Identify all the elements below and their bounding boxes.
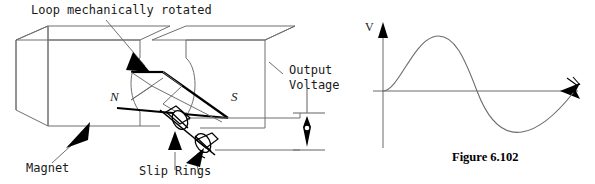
leader-output-voltage <box>269 62 283 74</box>
label-north-pole: N <box>110 89 119 105</box>
voltage-arrow-body <box>303 116 311 147</box>
figure-caption: Figure 6.102 <box>452 150 518 165</box>
loop-twist-edge-a <box>131 72 163 100</box>
output-terminals <box>293 88 325 150</box>
label-south-pole: S <box>231 89 238 105</box>
leader-loop-arrowhead <box>126 52 150 72</box>
north-top-face <box>16 26 170 40</box>
label-slip-rings: Slip Rings <box>139 164 211 179</box>
south-top-face <box>152 26 295 40</box>
waveform-arrow-feather-1 <box>567 78 578 86</box>
label-magnet: Magnet <box>26 161 69 176</box>
label-output-voltage-line2: Voltage <box>289 78 340 93</box>
label-waveform-v-axis: V <box>365 20 374 35</box>
waveform-sine-curve <box>383 36 573 132</box>
voltage-arrow-waist <box>305 126 310 131</box>
figure-container: Loop mechanically rotated N S Output Vol… <box>0 0 595 184</box>
loop-inner-diagonal <box>152 86 222 122</box>
loop-twist-edge-b <box>163 72 182 104</box>
north-left-face <box>16 26 48 126</box>
waveform-plot <box>373 22 580 148</box>
south-corner-edge <box>265 26 295 40</box>
output-voltage-arrow <box>303 116 311 147</box>
leader-slip-ring-1-arrowhead <box>168 131 182 150</box>
waveform-y-axis-arrowhead <box>378 22 388 38</box>
leader-loop-label <box>106 20 145 66</box>
label-loop-mechanically-rotated: Loop mechanically rotated <box>31 3 212 18</box>
label-output-voltage-line1: Output <box>289 63 332 78</box>
